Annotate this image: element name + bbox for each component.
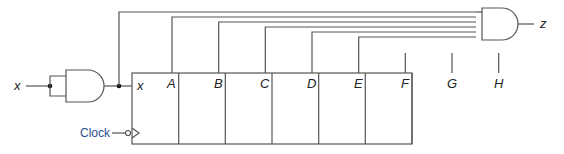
tap-c-wire — [265, 27, 476, 73]
clock-inversion-bubble — [126, 131, 131, 136]
output-z-label: z — [539, 16, 547, 31]
cell-label-g: G — [447, 76, 457, 91]
tap-b-wire — [219, 22, 476, 73]
cell-label-a: A — [166, 76, 176, 91]
tap-e-wire — [359, 37, 476, 73]
tap-a-wire — [172, 17, 476, 73]
cell-label-b: B — [214, 76, 223, 91]
input-x-label: x — [13, 78, 21, 93]
cell-label-c: C — [260, 76, 270, 91]
input-tie-wire — [50, 76, 66, 86]
register-input-label: x — [136, 78, 144, 93]
cell-label-e: E — [354, 76, 363, 91]
cell-label-f: F — [401, 76, 410, 91]
shift-register-diagram: x x A B C D E F G H z Clock — [0, 0, 564, 154]
output-and-gate — [482, 8, 518, 40]
cell-label-d: D — [307, 76, 316, 91]
cell-label-h: H — [494, 76, 504, 91]
input-tie-wire-2 — [50, 86, 66, 96]
input-and-gate — [66, 70, 104, 102]
clock-label: Clock — [80, 126, 111, 140]
